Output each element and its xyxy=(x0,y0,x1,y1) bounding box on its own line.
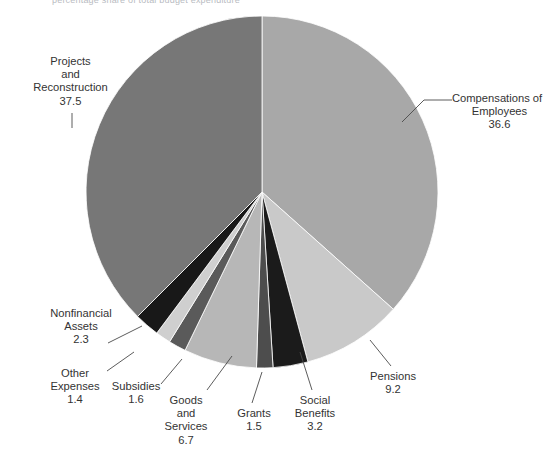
leader-line xyxy=(252,372,262,403)
pie-chart-figure: percentage share of total budget expendi… xyxy=(0,0,553,473)
leader-line xyxy=(107,352,134,371)
slice-label-compensations-of-employees: Compensations of Employees 36.6 xyxy=(452,92,553,132)
leader-line xyxy=(370,340,391,366)
slice-label-grants: Grants 1.5 xyxy=(228,407,280,433)
slice-label-other-expenses: Other Expenses 1.4 xyxy=(41,367,109,407)
slice-label-nonfinancial-assets: Nonfinancial Assets 2.3 xyxy=(38,307,124,347)
slice-label-subsidies: Subsidies 1.6 xyxy=(105,380,167,406)
slice-label-projects-and-reconstruction: Projects and Reconstruction 37.5 xyxy=(8,55,133,108)
slice-label-social-benefits: Social Benefits 3.2 xyxy=(284,394,346,434)
slice-label-pensions: Pensions 9.2 xyxy=(362,370,424,396)
